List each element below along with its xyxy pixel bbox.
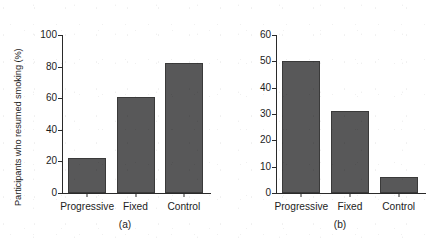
x-tick-mark — [135, 193, 136, 197]
y-tick-mark — [272, 140, 276, 141]
y-tick-mark — [272, 167, 276, 168]
x-tick-label-fixed: Fixed — [123, 201, 148, 212]
panel-b: Participants continuously abstinent (%) … — [213, 0, 427, 242]
y-tick-label: 60 — [260, 30, 271, 40]
bar-b-control — [380, 177, 418, 193]
figure-two-panel-bar-charts: Participants who resumed smoking (%) 020… — [0, 0, 427, 242]
y-tick-label: 0 — [265, 188, 271, 198]
y-tick-label: 100 — [40, 30, 57, 40]
panel-a-x-axis-line — [62, 193, 211, 194]
y-tick-mark — [58, 130, 62, 131]
y-tick-mark — [58, 35, 62, 36]
y-tick-mark — [272, 35, 276, 36]
panel-a-plot-area: 020406080100ProgressiveFixedControl — [63, 35, 208, 193]
y-tick-label: 20 — [260, 135, 271, 145]
y-tick-label: 80 — [46, 62, 57, 72]
x-tick-mark — [350, 193, 351, 197]
panel-a-caption: (a) — [95, 219, 155, 230]
y-tick-label: 50 — [260, 56, 271, 66]
panel-a-y-axis-label: Participants who resumed smoking (%) — [13, 48, 23, 206]
y-tick-label: 30 — [260, 109, 271, 119]
panel-b-x-axis-line — [276, 193, 426, 194]
bar-a-fixed — [117, 97, 155, 193]
panel-b-plot-area: 0102030405060ProgressiveFixedControl — [277, 35, 423, 193]
y-tick-mark — [272, 88, 276, 89]
x-tick-mark — [398, 193, 399, 197]
y-tick-label: 40 — [46, 125, 57, 135]
x-tick-label-fixed: Fixed — [338, 201, 363, 212]
y-tick-label: 10 — [260, 162, 271, 172]
y-tick-label: 0 — [51, 188, 57, 198]
x-tick-mark — [183, 193, 184, 197]
panel-b-y-axis-line — [276, 35, 277, 194]
y-tick-mark — [58, 67, 62, 68]
y-tick-mark — [272, 193, 276, 194]
y-tick-mark — [272, 61, 276, 62]
y-tick-mark — [58, 161, 62, 162]
x-tick-mark — [87, 193, 88, 197]
y-tick-label: 40 — [260, 83, 271, 93]
bar-b-fixed — [331, 111, 369, 193]
bar-a-control — [165, 63, 203, 193]
panel-a-y-axis-line — [62, 35, 63, 194]
panel-a: Participants who resumed smoking (%) 020… — [0, 0, 213, 242]
y-tick-mark — [58, 98, 62, 99]
x-tick-label-control: Control — [382, 201, 415, 212]
x-tick-label-progressive: Progressive — [274, 201, 328, 212]
y-tick-label: 20 — [46, 156, 57, 166]
bar-b-progressive — [282, 61, 320, 193]
x-tick-mark — [301, 193, 302, 197]
bar-a-progressive — [68, 158, 106, 193]
panel-b-caption: (b) — [310, 219, 370, 230]
y-tick-label: 60 — [46, 93, 57, 103]
x-tick-label-progressive: Progressive — [60, 201, 114, 212]
x-tick-label-control: Control — [167, 201, 200, 212]
y-tick-mark — [58, 193, 62, 194]
y-tick-mark — [272, 114, 276, 115]
